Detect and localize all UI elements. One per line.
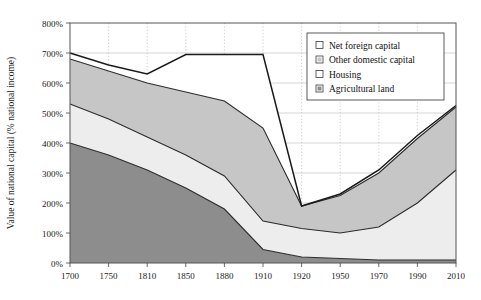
legend-swatch-fill	[318, 58, 322, 62]
x-tick-label: 1850	[177, 271, 196, 281]
stacked-area-chart: 1700175018101850188019101920195019701990…	[0, 0, 481, 300]
chart-figure: 1700175018101850188019101920195019701990…	[0, 0, 481, 300]
legend-label: Other domestic capital	[329, 55, 415, 65]
y-tick-label: 300%	[42, 169, 64, 179]
legend-label: Net foreign capital	[329, 41, 401, 51]
y-axis-tick-labels: 0%100%200%300%400%500%600%700%800%	[42, 19, 64, 269]
y-tick-label: 100%	[42, 229, 64, 239]
y-axis-title: Value of national capital (% national in…	[6, 57, 17, 230]
y-tick-label: 400%	[42, 139, 64, 149]
y-tick-label: 0%	[51, 259, 64, 269]
x-tick-label: 1910	[254, 271, 273, 281]
y-tick-label: 200%	[42, 199, 64, 209]
x-tick-label: 1920	[293, 271, 312, 281]
x-tick-label: 1750	[100, 271, 119, 281]
y-tick-label: 700%	[42, 49, 64, 59]
x-tick-label: 1880	[215, 271, 234, 281]
x-tick-label: 1700	[61, 271, 80, 281]
y-tick-label: 800%	[42, 19, 64, 29]
legend-label: Housing	[329, 70, 361, 80]
legend-swatch-fill	[318, 87, 322, 91]
y-tick-label: 500%	[42, 109, 64, 119]
x-tick-label: 1970	[370, 271, 389, 281]
legend-swatch-outer	[316, 71, 323, 78]
legend-label: Agricultural land	[329, 84, 394, 94]
legend-swatch-outer	[316, 42, 323, 49]
chart-legend: Net foreign capitalOther domestic capita…	[307, 33, 444, 100]
x-tick-label: 2010	[447, 271, 466, 281]
x-tick-label: 1950	[331, 271, 350, 281]
x-tick-label: 1990	[408, 271, 427, 281]
y-tick-label: 600%	[42, 79, 64, 89]
x-tick-label: 1810	[138, 271, 157, 281]
